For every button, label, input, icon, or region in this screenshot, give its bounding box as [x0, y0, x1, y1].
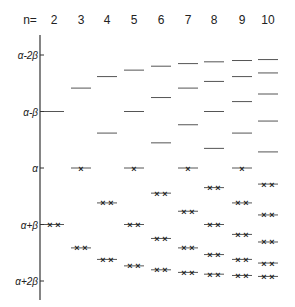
electron-mark: ×: [207, 250, 212, 260]
electron-mark: ×: [261, 210, 266, 220]
electron-mark: ×: [154, 234, 159, 244]
electron-mark: ×: [162, 265, 167, 275]
column-n-label: 7: [185, 13, 192, 27]
electron-mark: ×: [269, 259, 274, 269]
electron-mark: ×: [82, 243, 87, 253]
electron-mark: ×: [189, 268, 194, 278]
electron-mark: ×: [269, 272, 274, 282]
column-n-label: 2: [51, 13, 58, 27]
electron-mark: ×: [181, 243, 186, 253]
column-n-label: 9: [239, 13, 246, 27]
electron-mark: ×: [235, 255, 240, 265]
electron-mark: ×: [162, 189, 167, 199]
electron-mark: ×: [189, 243, 194, 253]
column-n-label: 8: [211, 13, 218, 27]
electron-mark: ×: [215, 270, 220, 280]
electron-mark: ×: [162, 234, 167, 244]
electron-mark: ×: [235, 230, 240, 240]
electron-mark: ×: [108, 198, 113, 208]
electron-mark: ×: [235, 198, 240, 208]
electron-mark: ×: [269, 180, 274, 190]
electron-mark: ×: [215, 220, 220, 230]
electron-mark: ×: [261, 180, 266, 190]
column-n-label: 10: [261, 13, 275, 27]
electron-mark: ×: [207, 220, 212, 230]
electron-mark: ×: [235, 271, 240, 281]
electron-mark: ×: [261, 259, 266, 269]
electron-mark: ×: [243, 255, 248, 265]
electron-mark: ×: [181, 268, 186, 278]
mo-energy-diagram: n=α-2βα-βαα+βα+2β2××3×××4××××5×××××6××××…: [0, 0, 295, 307]
electron-mark: ×: [100, 198, 105, 208]
electron-mark: ×: [127, 220, 132, 230]
electron-mark: ×: [100, 255, 105, 265]
electron-mark: ×: [243, 230, 248, 240]
electron-mark: ×: [55, 220, 60, 230]
electron-mark: ×: [154, 265, 159, 275]
electron-mark: ×: [181, 207, 186, 217]
electron-mark: ×: [108, 255, 113, 265]
electron-mark: ×: [261, 272, 266, 282]
electron-mark: ×: [207, 183, 212, 193]
electron-mark: ×: [215, 183, 220, 193]
n-equals-label: n=: [23, 13, 37, 27]
electron-mark: ×: [239, 164, 244, 174]
axis-tick-label: α+2β: [15, 276, 38, 287]
electron-mark: ×: [189, 207, 194, 217]
column-n-label: 3: [78, 13, 85, 27]
electron-mark: ×: [269, 210, 274, 220]
axis-tick-label: α-β: [23, 107, 38, 118]
axis-tick-label: α-2β: [18, 50, 39, 61]
electron-mark: ×: [269, 237, 274, 247]
axis-tick-label: α+β: [21, 220, 39, 231]
electron-mark: ×: [243, 198, 248, 208]
electron-mark: ×: [243, 271, 248, 281]
electron-mark: ×: [207, 270, 212, 280]
electron-mark: ×: [135, 261, 140, 271]
electron-mark: ×: [215, 250, 220, 260]
electron-mark: ×: [154, 189, 159, 199]
electron-mark: ×: [131, 164, 136, 174]
electron-mark: ×: [127, 261, 132, 271]
column-n-label: 5: [131, 13, 138, 27]
electron-mark: ×: [78, 164, 83, 174]
electron-mark: ×: [261, 237, 266, 247]
electron-mark: ×: [135, 220, 140, 230]
electron-mark: ×: [74, 243, 79, 253]
column-n-label: 6: [158, 13, 165, 27]
electron-mark: ×: [185, 164, 190, 174]
electron-mark: ×: [47, 220, 52, 230]
column-n-label: 4: [104, 13, 111, 27]
axis-tick-label: α: [32, 163, 38, 174]
